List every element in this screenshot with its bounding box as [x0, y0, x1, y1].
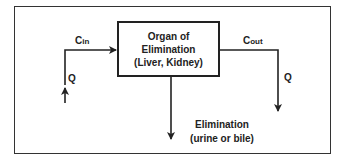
- organ-of-elimination-box: Organ of Elimination (Liver, Kidney): [117, 21, 220, 77]
- elimination-label: Elimination (urine or bile): [182, 118, 262, 146]
- q-out-label: Q: [284, 72, 292, 83]
- q-in-label: Q: [68, 73, 76, 84]
- c-in-sub: in: [82, 37, 89, 46]
- organ-label-line2: Elimination: [142, 43, 196, 56]
- c-out-sub: out: [250, 37, 262, 46]
- elimination-line2: (urine or bile): [182, 132, 262, 146]
- elimination-line1: Elimination: [182, 118, 262, 132]
- c-in-label: Cin: [75, 35, 89, 47]
- organ-label-line3: (Liver, Kidney): [134, 56, 203, 69]
- outflow-arrow: [220, 50, 278, 111]
- organ-label-line1: Organ of: [148, 30, 190, 43]
- c-out-label: Cout: [243, 35, 263, 47]
